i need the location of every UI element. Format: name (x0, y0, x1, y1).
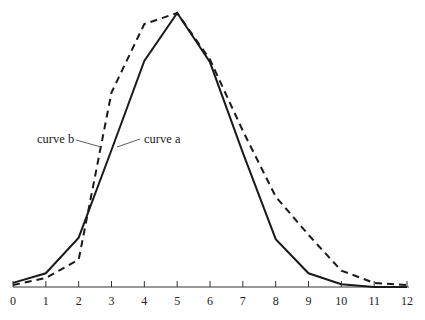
curve-a-line (13, 13, 407, 287)
x-tick-label: 3 (109, 294, 115, 308)
curve-b-label: curve b (37, 132, 74, 146)
x-tick-label: 11 (368, 294, 380, 308)
x-tick-label: 1 (43, 294, 49, 308)
x-tick-label: 8 (273, 294, 279, 308)
x-tick-label: 4 (141, 294, 147, 308)
x-axis-tick-labels: 0123456789101112 (10, 294, 413, 308)
x-tick-label: 2 (76, 294, 82, 308)
curve-a-label: curve a (144, 132, 181, 146)
line-chart: 0123456789101112 curve b curve a (0, 0, 425, 320)
curve-b-leader-line (76, 140, 101, 147)
x-tick-label: 6 (207, 294, 213, 308)
x-tick-label: 0 (10, 294, 16, 308)
x-tick-label: 9 (306, 294, 312, 308)
x-tick-label: 5 (174, 294, 180, 308)
x-tick-label: 12 (401, 294, 413, 308)
x-tick-label: 7 (240, 294, 246, 308)
curve-a-leader-line (117, 139, 140, 147)
x-tick-label: 10 (335, 294, 347, 308)
